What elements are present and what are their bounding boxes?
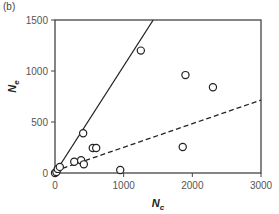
y-tick-label: 500 [31, 117, 48, 128]
x-tick-label: 2000 [181, 180, 204, 191]
scatter-chart: 0100020003000050010001500 NcNe [0, 0, 279, 214]
data-point [80, 161, 87, 168]
data-point [56, 163, 63, 170]
plot-frame [55, 20, 261, 173]
data-point [71, 158, 78, 165]
data-point [179, 143, 186, 150]
axis-labels: NcNe [6, 80, 165, 212]
x-tick-label: 1000 [113, 180, 136, 191]
y-axis-title: Ne [6, 80, 21, 93]
trend-lines [55, 20, 261, 173]
solid-reference-line [55, 20, 153, 173]
data-point [80, 130, 87, 137]
y-tick-label: 1500 [26, 15, 49, 26]
data-points [51, 47, 216, 177]
data-point [117, 166, 124, 173]
x-tick-label: 3000 [250, 180, 273, 191]
x-axis-title: Nc [152, 197, 165, 212]
data-point [93, 144, 100, 151]
y-tick-label: 1000 [26, 66, 49, 77]
data-point [137, 47, 144, 54]
y-tick-label: 0 [42, 168, 48, 179]
x-axis-subscript: c [160, 203, 165, 212]
y-axis-subscript: e [12, 80, 21, 85]
data-point [182, 71, 189, 78]
x-tick-label: 0 [52, 180, 58, 191]
data-point [209, 84, 216, 91]
